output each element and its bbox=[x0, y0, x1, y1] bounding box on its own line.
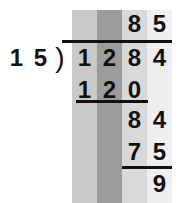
product-digit: 5 bbox=[147, 140, 172, 164]
remainder-digit: 4 bbox=[147, 108, 172, 132]
dividend-digit: 2 bbox=[97, 46, 122, 70]
division-bar bbox=[62, 40, 172, 43]
quotient-digit: 8 bbox=[122, 12, 147, 36]
division-bracket: ) bbox=[52, 46, 68, 70]
subtraction-line-2 bbox=[122, 166, 172, 169]
product-digit: 0 bbox=[122, 78, 147, 102]
divisor-digit: 1 bbox=[4, 46, 29, 70]
column-shade-1 bbox=[72, 10, 97, 203]
dividend-digit: 8 bbox=[122, 46, 147, 70]
dividend-digit: 4 bbox=[147, 46, 172, 70]
dividend-digit: 1 bbox=[72, 46, 97, 70]
subtraction-line-1 bbox=[76, 100, 148, 103]
remainder-digit: 8 bbox=[122, 108, 147, 132]
product-digit: 7 bbox=[122, 140, 147, 164]
quotient-digit: 5 bbox=[147, 12, 172, 36]
product-digit: 1 bbox=[72, 78, 97, 102]
column-shade-2 bbox=[97, 10, 122, 203]
divisor-digit: 5 bbox=[28, 46, 53, 70]
final-remainder: 9 bbox=[147, 172, 172, 196]
product-digit: 2 bbox=[97, 78, 122, 102]
